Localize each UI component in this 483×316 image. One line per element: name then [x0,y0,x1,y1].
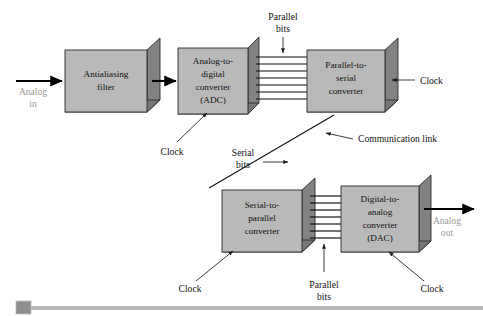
p2s-label-2: serial [336,73,356,83]
communication-link-line [209,115,334,188]
digital-to-analog-converter-block: Digital-to- analog converter (DAC) [341,175,431,252]
parallel-bits-bottom-label-2: bits [317,291,331,302]
serial-to-parallel-converter-block: Serial-to- parallel converter [222,178,315,252]
parallel-bits-top-label-2: bits [276,23,290,34]
parallel-bits-bottom-label-1: Parallel [309,279,339,290]
analog-out-label-2: out [441,227,454,238]
dac-label-1: Digital-to- [361,194,400,204]
clock-s2p-label: Clock [179,283,202,294]
p2s-label-1: Parallel-to- [325,60,366,70]
scrollbar-thumb[interactable] [16,301,31,314]
dac-label-4: (DAC) [367,233,393,243]
adc-label-4: (ADC) [200,95,226,105]
antialiasing-filter-label-2: filter [97,82,115,92]
clock-s2p-arrow [196,251,233,281]
dac-label-3: converter [363,220,398,230]
analog-in-label-1: Analog [19,86,47,97]
clock-adc-label: Clock [161,146,184,157]
adc-label-2: digital [201,69,225,79]
adc-label-1: Analog-to- [193,56,233,66]
adc-label-3: converter [196,82,231,92]
antialiasing-filter-block: Antialiasing filter [65,38,160,112]
scrollbar-track[interactable] [29,306,483,310]
s2p-label-3: converter [245,226,280,236]
analog-out-label-1: Analog [433,215,461,226]
diagram-canvas: Antialiasing filter Analog in Analog-to-… [0,0,483,316]
analog-to-digital-converter-block: Analog-to- digital converter (ADC) [178,37,259,114]
clock-adc-arrow [177,113,207,142]
serial-bits-label-1: Serial [232,147,255,158]
communication-link-label: Communication link [358,133,437,144]
dac-label-2: analog [368,207,393,217]
top-parallel-bus [256,57,307,99]
block-diagram-figure: Antialiasing filter Analog in Analog-to-… [0,0,483,316]
horizontal-scrollbar[interactable] [16,301,483,314]
s2p-label-1: Serial-to- [245,200,280,210]
s2p-label-2: parallel [248,213,276,223]
communication-link-pointer [326,133,353,139]
clock-dac-label: Clock [421,283,444,294]
clock-dac-arrow [389,252,424,281]
parallel-bits-top-label-1: Parallel [268,11,298,22]
serial-bits-label-2: bits [236,159,250,170]
clock-p2s-label: Clock [420,75,443,86]
antialiasing-filter-label-1: Antialiasing [84,69,129,79]
analog-in-label-2: in [29,98,37,109]
p2s-label-3: converter [329,86,364,96]
parallel-to-serial-converter-block: Parallel-to- serial converter [307,38,398,112]
